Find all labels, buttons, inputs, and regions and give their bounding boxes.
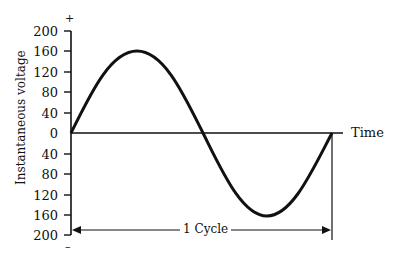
arrow-left-icon — [72, 226, 81, 234]
cycle-label: 1 Cycle — [180, 222, 231, 236]
y-axis-ticks — [64, 31, 71, 235]
tick-label: 200 — [28, 229, 58, 242]
tick-label: 200 — [28, 25, 58, 38]
tick-label: 160 — [28, 45, 58, 58]
x-axis-label: Time — [351, 125, 384, 140]
tick-label: 40 — [28, 107, 58, 120]
positive-sign: + — [65, 12, 74, 25]
tick-label: 80 — [28, 168, 58, 181]
tick-label: 0 — [28, 127, 58, 140]
tick-label: 40 — [28, 148, 58, 161]
tick-label: 120 — [28, 66, 58, 79]
negative-sign: – — [65, 240, 71, 253]
y-axis-label: Instantaneous voltage — [14, 75, 28, 185]
tick-label: 120 — [28, 189, 58, 202]
tick-label: 80 — [28, 86, 58, 99]
arrow-right-icon — [322, 226, 331, 234]
tick-label: 160 — [28, 209, 58, 222]
